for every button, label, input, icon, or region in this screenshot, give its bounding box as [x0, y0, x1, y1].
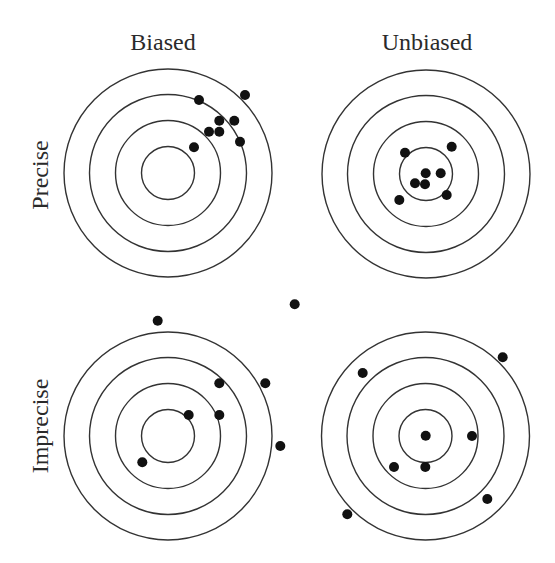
shot-dot	[214, 127, 224, 137]
shot-dot	[342, 509, 352, 519]
column-label-unbiased: Unbiased	[382, 29, 473, 55]
shot-dot	[214, 116, 224, 126]
target-biased-precise	[64, 69, 272, 277]
shot-dot	[421, 168, 431, 178]
shot-dot	[410, 178, 420, 188]
shot-dot	[498, 352, 508, 362]
row-label-imprecise: Imprecise	[27, 379, 53, 474]
shot-dot	[394, 195, 404, 205]
shot-dot	[421, 431, 431, 441]
shot-dot	[240, 90, 250, 100]
target-ring-1	[142, 147, 195, 200]
shot-dot	[442, 190, 452, 200]
shot-dot	[447, 142, 457, 152]
shot-dot	[214, 410, 224, 420]
shot-dot	[358, 368, 368, 378]
shot-dot	[389, 462, 399, 472]
bias-precision-target-diagram: Biased Unbiased Precise Imprecise	[0, 0, 555, 563]
shot-dot	[436, 168, 446, 178]
shot-dot	[420, 179, 430, 189]
shot-dot	[235, 137, 245, 147]
targets-group	[64, 69, 530, 540]
row-label-precise: Precise	[27, 140, 53, 209]
shot-dot	[137, 457, 147, 467]
shot-dot	[214, 378, 224, 388]
shot-dot	[184, 410, 194, 420]
shot-dot	[420, 462, 430, 472]
shot-dot	[194, 95, 204, 105]
shot-dot	[482, 494, 492, 504]
target-ring-2	[116, 384, 221, 489]
shot-dot	[189, 142, 199, 152]
target-unbiased-imprecise	[322, 332, 530, 540]
target-biased-imprecise	[64, 299, 300, 540]
target-ring-4	[64, 332, 272, 540]
shot-dot	[204, 127, 214, 137]
shot-dot	[153, 316, 163, 326]
column-label-biased: Biased	[130, 29, 195, 55]
shot-dot	[290, 299, 300, 309]
shot-dot	[229, 116, 239, 126]
shot-dot	[467, 431, 477, 441]
shot-dot	[260, 378, 270, 388]
target-ring-2	[116, 121, 221, 226]
shot-dot	[275, 441, 285, 451]
target-unbiased-precise	[322, 70, 530, 278]
shot-dot	[400, 148, 410, 158]
target-ring-4	[64, 69, 272, 277]
